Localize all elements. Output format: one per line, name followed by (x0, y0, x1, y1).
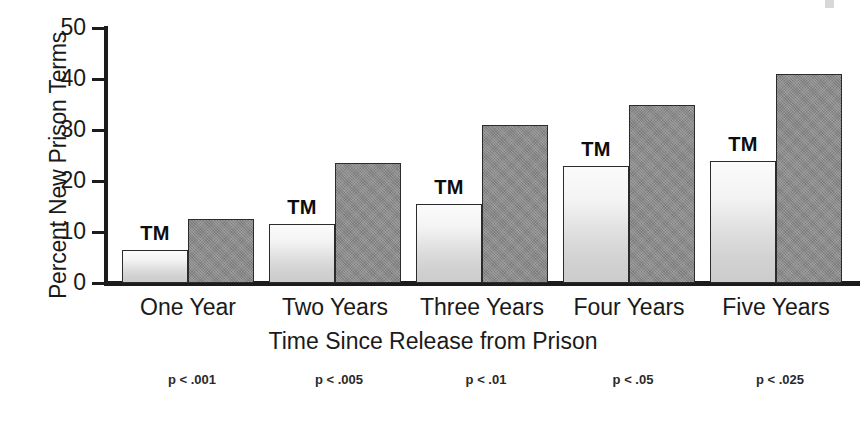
x-axis-tick-label: Five Years (722, 294, 829, 320)
y-axis-tick-label: 50 (44, 16, 86, 39)
x-axis-label: Time Since Release from Prison (0, 328, 866, 355)
bar-chart-figure: Percent New Prison Terms 01020304050 TMT… (0, 0, 866, 421)
bar-comparison (188, 219, 254, 283)
y-axis-tick-label: 10 (44, 220, 86, 243)
bar-annotation-tm: TM (140, 222, 169, 245)
x-axis-tick-label: One Year (140, 294, 236, 320)
y-axis-tick-label: 20 (44, 169, 86, 192)
bar-comparison (335, 163, 401, 283)
p-value-label: p < .025 (756, 372, 804, 387)
bar-group: TM (563, 28, 695, 283)
bar-tm (416, 204, 482, 283)
bar-group: TM (269, 28, 401, 283)
bar-annotation-tm: TM (287, 196, 316, 219)
bar-tm (122, 250, 188, 283)
plot-area: TMTMTMTMTM (104, 28, 846, 283)
bar-annotation-tm: TM (434, 176, 463, 199)
bar-tm (710, 161, 776, 283)
p-value-label: p < .005 (315, 372, 363, 387)
y-axis-tick-label: 30 (44, 118, 86, 141)
bar-group: TM (416, 28, 548, 283)
y-axis-tick-label: 0 (44, 271, 86, 294)
bar-annotation-tm: TM (728, 133, 757, 156)
scan-artifact (825, 0, 834, 8)
bar-annotation-tm: TM (581, 138, 610, 161)
p-value-label: p < .05 (613, 372, 654, 387)
x-axis-tick-label: Two Years (282, 294, 388, 320)
y-axis-tick-label: 40 (44, 67, 86, 90)
x-axis-tick-label: Four Years (573, 294, 684, 320)
bar-comparison (776, 74, 842, 283)
bar-comparison (629, 105, 695, 284)
bar-comparison (482, 125, 548, 283)
bar-group: TM (122, 28, 254, 283)
p-value-label: p < .001 (168, 372, 216, 387)
p-value-label: p < .01 (466, 372, 507, 387)
bar-group: TM (710, 28, 842, 283)
x-axis-tick-label: Three Years (420, 294, 544, 320)
bar-tm (269, 224, 335, 283)
bar-tm (563, 166, 629, 283)
